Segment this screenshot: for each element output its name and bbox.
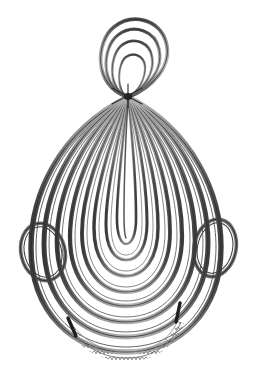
drawing-canvas (0, 0, 253, 383)
nested-loop-figure (0, 0, 253, 383)
